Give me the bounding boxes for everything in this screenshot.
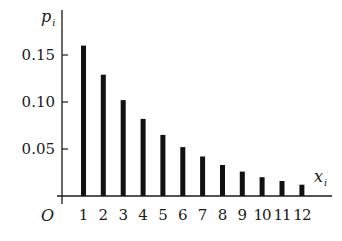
x-tick-label: 6 [178, 206, 188, 224]
y-ticks-group: 0.050.100.15 [22, 46, 68, 158]
x-axis-label: xi [314, 167, 327, 188]
bar-2 [101, 75, 106, 196]
x-tick-labels-group: 123456789101112 [79, 206, 311, 224]
x-tick-label: 7 [198, 206, 208, 224]
origin-label: O [41, 206, 54, 225]
bar-9 [240, 172, 245, 196]
x-tick-label: 8 [218, 206, 228, 224]
bar-5 [160, 135, 165, 196]
bar-1 [81, 46, 86, 196]
y-tick-label: 0.05 [22, 140, 55, 158]
x-tick-label: 3 [118, 206, 128, 224]
x-tick-label: 5 [158, 206, 168, 224]
x-tick-label: 2 [99, 206, 109, 224]
y-tick-label: 0.15 [22, 46, 55, 64]
bar-3 [121, 100, 126, 196]
bar-10 [260, 177, 265, 196]
bar-11 [280, 181, 285, 196]
y-tick-label: 0.10 [22, 93, 55, 111]
x-tick-label: 9 [238, 206, 248, 224]
x-tick-label: 4 [138, 206, 148, 224]
x-tick-label: 12 [293, 206, 311, 224]
bars-group [81, 46, 304, 196]
bar-4 [141, 119, 146, 196]
bar-6 [180, 147, 185, 196]
y-axis-label: pi [41, 7, 55, 28]
bar-8 [220, 165, 225, 196]
bar-7 [200, 157, 205, 197]
x-tick-label: 11 [273, 206, 290, 224]
x-tick-label: 10 [254, 206, 272, 224]
bar-12 [299, 185, 304, 196]
bar-chart: 0.050.100.15 123456789101112 pi xi O [0, 0, 342, 241]
x-tick-label: 1 [79, 206, 89, 224]
